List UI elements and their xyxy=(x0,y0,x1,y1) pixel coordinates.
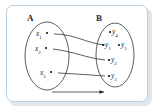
element-y4: y4 xyxy=(112,27,118,38)
direction-arrow-head xyxy=(100,90,105,93)
element-y3: y3 xyxy=(111,71,117,82)
element-x3: x3 xyxy=(40,68,46,79)
set-mapping-figure: A B x1 x2 x3 y4 y1 y5 y2 y3 xyxy=(0,0,157,110)
set-a-label: A xyxy=(27,13,34,23)
element-dot-y1 xyxy=(102,44,104,46)
element-y5: y5 xyxy=(121,40,127,51)
element-dot-y2 xyxy=(108,59,110,61)
set-b-label: B xyxy=(96,13,102,23)
element-dot-y5 xyxy=(118,44,120,46)
element-dot-y3 xyxy=(108,75,110,77)
element-dot-x2 xyxy=(45,47,47,49)
mapping-arrow-x2-y2 xyxy=(53,49,105,60)
element-x2: x2 xyxy=(35,44,41,55)
element-dot-y4 xyxy=(109,31,111,33)
element-dot-x1 xyxy=(46,32,48,34)
element-dot-x3 xyxy=(50,71,52,73)
element-x1: x1 xyxy=(36,29,42,40)
element-y1: y1 xyxy=(105,40,111,51)
diagram-canvas xyxy=(0,0,157,110)
element-y2: y2 xyxy=(111,55,117,66)
